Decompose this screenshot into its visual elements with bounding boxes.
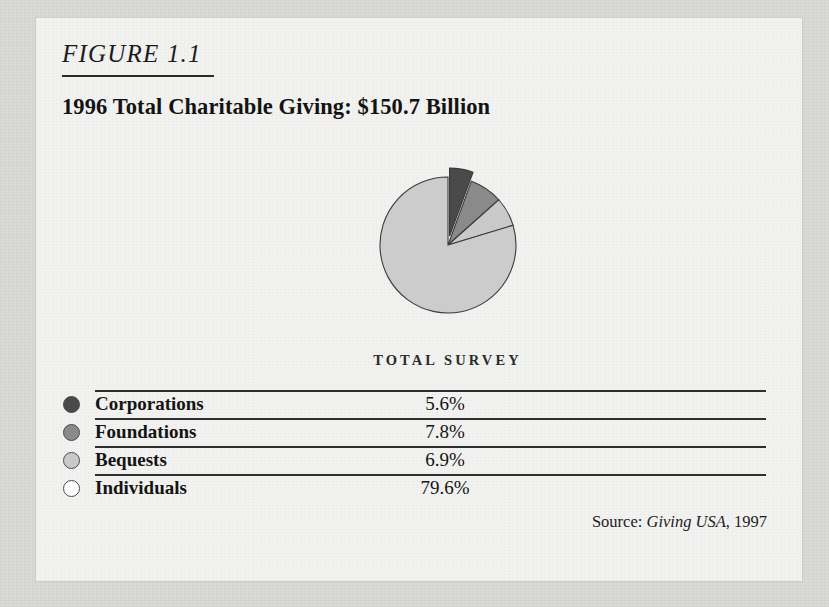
pie-chart-svg xyxy=(360,140,550,355)
pie-chart xyxy=(360,140,550,355)
legend-value-corporations: 5.6% xyxy=(385,393,505,415)
legend-row-rule xyxy=(95,418,766,420)
legend-label-corporations: Corporations xyxy=(95,393,385,415)
figure-number-label: FIGURE 1.1 xyxy=(62,40,202,71)
legend-row: Corporations 5.6% xyxy=(62,390,768,418)
legend-label-bequests: Bequests xyxy=(95,449,385,471)
source-prefix: Source: xyxy=(592,512,642,531)
legend-label-foundations: Foundations xyxy=(95,421,385,443)
legend-marker-foundations xyxy=(63,424,80,441)
legend-value-individuals: 79.6% xyxy=(385,477,505,499)
legend-value-bequests: 6.9% xyxy=(385,449,505,471)
figure-title: 1996 Total Charitable Giving: $150.7 Bil… xyxy=(62,94,490,120)
figure-number-underline xyxy=(62,75,214,77)
legend-row-rule xyxy=(95,474,766,476)
legend-value-foundations: 7.8% xyxy=(385,421,505,443)
legend-marker-individuals xyxy=(63,480,80,497)
legend-row: Bequests 6.9% xyxy=(62,446,768,474)
legend-row-rule xyxy=(95,446,766,448)
legend-marker-bequests xyxy=(63,452,80,469)
source-note: Source: Giving USA, 1997 xyxy=(592,512,767,532)
legend-row: Foundations 7.8% xyxy=(62,418,768,446)
legend-marker-corporations xyxy=(63,396,80,413)
legend-row: Individuals 79.6% xyxy=(62,474,768,502)
legend-label-individuals: Individuals xyxy=(95,477,385,499)
source-year: , 1997 xyxy=(726,512,767,531)
figure-page: FIGURE 1.1 1996 Total Charitable Giving:… xyxy=(0,0,829,607)
source-publication: Giving USA xyxy=(646,512,725,531)
legend-row-rule xyxy=(95,390,766,392)
chart-caption: TOTAL SURVEY xyxy=(0,352,829,369)
legend-table: Corporations 5.6% Foundations 7.8% Beque… xyxy=(62,390,768,502)
